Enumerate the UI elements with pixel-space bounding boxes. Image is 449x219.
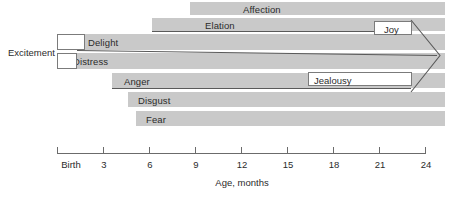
axis-title: Age, months [215,178,268,188]
axis-tick-label-12: 12 [237,160,248,170]
axis-tick-0 [57,147,58,153]
x-axis: Birth 3 6 9 12 15 18 21 24 Age, months [0,0,449,219]
axis-tick-21 [379,147,380,153]
axis-tick-15 [287,147,288,153]
emotion-development-chart: Affection Elation Delight Distress Anger… [0,0,449,219]
axis-line [57,153,426,154]
axis-tick-label-6: 6 [147,160,152,170]
axis-tick-18 [333,147,334,153]
axis-tick-9 [195,147,196,153]
axis-tick-24 [425,147,426,153]
axis-tick-label-3: 3 [101,160,106,170]
axis-tick-label-21: 21 [375,160,386,170]
axis-tick-label-0: Birth [61,160,81,170]
axis-tick-12 [241,147,242,153]
axis-tick-3 [103,147,104,153]
axis-tick-label-18: 18 [329,160,340,170]
axis-tick-label-15: 15 [283,160,294,170]
axis-tick-label-9: 9 [193,160,198,170]
axis-tick-6 [149,147,150,153]
axis-tick-label-24: 24 [421,160,432,170]
